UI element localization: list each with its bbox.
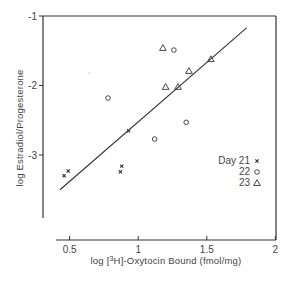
- y-tick-label: -3: [28, 150, 37, 161]
- data-point-day21: [67, 169, 70, 172]
- data-point-day21: [63, 174, 66, 177]
- data-point-day23: [162, 84, 169, 90]
- data-point-day22: [152, 137, 157, 142]
- legend-circle-icon: [255, 170, 260, 175]
- ticks: -1-2-30.511.52: [28, 11, 279, 256]
- data-point-day22: [172, 48, 177, 53]
- legend-triangle-icon: [254, 180, 261, 186]
- x-tick-label: 2: [273, 244, 279, 255]
- legend-label-day21: Day 21: [218, 155, 250, 166]
- data-point-day23: [175, 84, 182, 90]
- legend-label-day23: 23: [239, 177, 251, 188]
- stray-dot: [88, 72, 89, 73]
- x-tick-label: 0.5: [63, 244, 77, 255]
- data-point-day21: [119, 170, 122, 173]
- y-tick-label: -2: [28, 80, 37, 91]
- legend-label-day22: 22: [239, 166, 251, 177]
- y-tick-label: -1: [28, 11, 37, 22]
- data-point-day22: [106, 96, 111, 101]
- axes: [43, 16, 276, 240]
- x-axis-title: log [3H]-Oxytocin Bound (fmol/mg): [91, 255, 242, 266]
- data-point-day23: [186, 68, 193, 74]
- data-point-day22: [184, 120, 189, 125]
- legend-symbols: [254, 159, 261, 185]
- data-points: [63, 45, 215, 178]
- x-tick-label: 1: [135, 244, 141, 255]
- legend-x-icon: [255, 159, 258, 162]
- data-point-day23: [160, 45, 167, 51]
- data-point-day21: [120, 165, 123, 168]
- legend: Day 21 22 23: [218, 155, 260, 188]
- x-tick-label: 1.5: [200, 244, 214, 255]
- scatter-chart: -1-2-30.511.52 Day 21 22 23 log Estradio…: [0, 0, 293, 285]
- y-axis-title: log Estradiol/Progesterone: [14, 69, 25, 186]
